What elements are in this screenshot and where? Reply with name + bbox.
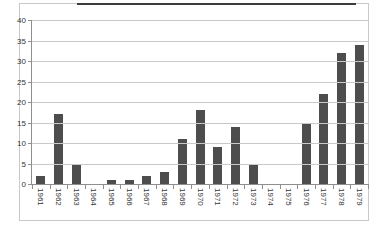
gridline-10 <box>32 143 368 144</box>
x-axis-label-1965: 1965 <box>107 188 116 206</box>
x-axis-label-cell: 1971 <box>209 188 227 222</box>
y-axis-label: 0 <box>6 180 26 189</box>
bar-1976 <box>302 123 311 185</box>
x-axis-label-cell: 1976 <box>297 188 315 222</box>
x-axis-tick <box>262 185 263 189</box>
x-axis-tick <box>227 185 228 189</box>
x-axis-label-cell: 1979 <box>350 188 368 222</box>
x-axis-tick <box>315 185 316 189</box>
y-axis-label: 40 <box>6 16 26 25</box>
bar-1968 <box>160 172 169 184</box>
x-axis-label-1971: 1971 <box>213 188 222 206</box>
bar-1977 <box>319 94 328 184</box>
x-axis-label-cell: 1972 <box>227 188 245 222</box>
y-axis-line <box>31 20 32 185</box>
bar-1961 <box>36 176 45 184</box>
x-axis-label-1967: 1967 <box>142 188 151 206</box>
x-axis-tick <box>209 185 210 189</box>
x-axis-label-cell: 1974 <box>262 188 280 222</box>
bar-1973 <box>249 164 258 185</box>
bar-1969 <box>178 139 187 184</box>
bar-1972 <box>231 127 240 184</box>
x-axis-tick <box>85 185 86 189</box>
x-axis-tick <box>333 185 334 189</box>
x-axis-tick <box>120 185 121 189</box>
y-axis-label: 20 <box>6 98 26 107</box>
x-axis-label-cell: 1978 <box>333 188 351 222</box>
x-axis-label-1978: 1978 <box>337 188 346 206</box>
x-axis-label-cell: 1968 <box>156 188 174 222</box>
x-axis-labels: 1961196219631964196519661967196819691970… <box>32 188 368 222</box>
x-axis-label-1973: 1973 <box>249 188 258 206</box>
x-axis-label-1966: 1966 <box>125 188 134 206</box>
x-axis-tick <box>67 185 68 189</box>
x-axis-tick <box>173 185 174 189</box>
x-axis-label-1972: 1972 <box>231 188 240 206</box>
x-axis-label-cell: 1975 <box>280 188 298 222</box>
y-axis-label: 35 <box>6 37 26 46</box>
x-axis-label-1964: 1964 <box>89 188 98 206</box>
x-axis-label-cell: 1970 <box>191 188 209 222</box>
top-edge-line <box>77 3 356 5</box>
x-axis-label-1963: 1963 <box>72 188 81 206</box>
x-axis-label-cell: 1966 <box>120 188 138 222</box>
x-axis-tick <box>50 185 51 189</box>
x-axis-tick <box>191 185 192 189</box>
x-axis-tick <box>297 185 298 189</box>
gridline-35 <box>32 41 368 42</box>
gridline-20 <box>32 102 368 103</box>
bar-1967 <box>142 176 151 184</box>
bar-1970 <box>196 110 205 184</box>
gridline-25 <box>32 82 368 83</box>
x-axis-tick <box>350 185 351 189</box>
x-axis-label-1976: 1976 <box>302 188 311 206</box>
x-axis-label-1962: 1962 <box>54 188 63 206</box>
y-axis-label: 10 <box>6 139 26 148</box>
x-axis-label-cell: 1964 <box>85 188 103 222</box>
x-axis-tick <box>244 185 245 189</box>
bar-1962 <box>54 114 63 184</box>
x-axis-label-cell: 1962 <box>50 188 68 222</box>
x-axis-label-1974: 1974 <box>266 188 275 206</box>
x-axis-tick <box>138 185 139 189</box>
x-axis-tick <box>32 185 33 189</box>
x-axis-label-cell: 1969 <box>174 188 192 222</box>
x-axis-tick <box>280 185 281 189</box>
x-axis-label-1961: 1961 <box>36 188 45 206</box>
x-axis-label-1970: 1970 <box>196 188 205 206</box>
y-axis-label: 30 <box>6 57 26 66</box>
x-axis-label-1977: 1977 <box>319 188 328 206</box>
x-axis-tick <box>103 185 104 189</box>
x-axis-label-1968: 1968 <box>160 188 169 206</box>
x-axis-label-1969: 1969 <box>178 188 187 206</box>
x-axis-line <box>31 184 369 185</box>
gridline-40 <box>32 20 368 21</box>
x-axis-label-cell: 1967 <box>138 188 156 222</box>
x-axis-label-cell: 1961 <box>32 188 50 222</box>
x-axis-label-cell: 1973 <box>244 188 262 222</box>
bar-1963 <box>72 164 81 185</box>
gridline-5 <box>32 164 368 165</box>
y-axis-label: 25 <box>6 78 26 87</box>
x-axis-label-1979: 1979 <box>355 188 364 206</box>
y-axis-label: 15 <box>6 119 26 128</box>
bar-chart: 1961196219631964196519661967196819691970… <box>0 0 376 228</box>
x-axis-label-1975: 1975 <box>284 188 293 206</box>
x-axis-label-cell: 1965 <box>103 188 121 222</box>
x-axis-label-cell: 1963 <box>67 188 85 222</box>
bar-1971 <box>213 147 222 184</box>
y-axis-label: 5 <box>6 160 26 169</box>
x-axis-label-cell: 1977 <box>315 188 333 222</box>
gridline-15 <box>32 123 368 124</box>
gridline-30 <box>32 61 368 62</box>
x-axis-tick <box>368 185 369 189</box>
x-axis-tick <box>156 185 157 189</box>
